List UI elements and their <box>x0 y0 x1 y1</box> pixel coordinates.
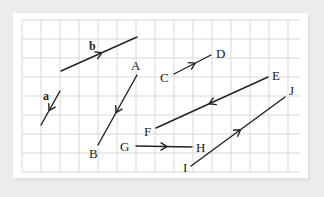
vector-line <box>136 146 192 147</box>
vector-diagram: baABCDEFGHIJ <box>0 0 324 197</box>
vector-label: b <box>89 39 96 53</box>
start-point-label: E <box>272 68 280 83</box>
start-point-label: G <box>120 139 129 154</box>
vector-label: a <box>43 89 49 103</box>
start-point-label: A <box>131 58 141 73</box>
end-point-label: D <box>216 46 225 61</box>
start-point-label: I <box>183 160 187 175</box>
end-point-label: H <box>196 140 205 155</box>
end-point-label: F <box>144 124 151 139</box>
start-point-label: C <box>160 70 169 85</box>
grid-canvas: baABCDEFGHIJ <box>0 0 324 197</box>
end-point-label: J <box>289 83 294 98</box>
end-point-label: B <box>89 146 98 161</box>
